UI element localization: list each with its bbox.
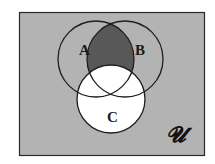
- set-b-label: B: [135, 42, 145, 58]
- set-a-label: A: [79, 42, 90, 58]
- venn-diagram: A B C 𝓤: [0, 0, 215, 164]
- set-c-label: C: [107, 109, 118, 125]
